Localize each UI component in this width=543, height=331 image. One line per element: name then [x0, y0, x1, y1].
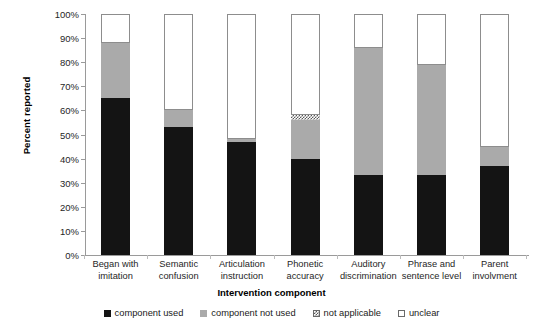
legend-item[interactable]: component used [104, 308, 184, 318]
bar-group[interactable] [291, 14, 320, 255]
white-square-icon [398, 310, 405, 317]
y-tick-mark [81, 183, 85, 184]
y-tick-label: 30% [60, 177, 79, 188]
bar-segment-component-not-used[interactable] [101, 43, 130, 98]
legend-item-label: unclear [409, 308, 440, 318]
legend-item-label: not applicable [324, 308, 381, 318]
bar-segment-component-used[interactable] [480, 166, 509, 255]
bar-segment-unclear[interactable] [354, 14, 383, 48]
bar-segment-component-used[interactable] [354, 175, 383, 255]
y-axis-line [85, 14, 86, 255]
bar-segment-component-not-used[interactable] [417, 65, 446, 176]
bar-segment-unclear[interactable] [417, 14, 446, 65]
bar-segment-unclear[interactable] [101, 14, 130, 43]
legend-item[interactable]: unclear [398, 308, 440, 318]
bar-segment-unclear[interactable] [291, 14, 320, 115]
y-tick-mark [81, 62, 85, 63]
y-tick-mark [81, 135, 85, 136]
y-tick-mark [81, 110, 85, 111]
chart-legend: component usedcomponent not usednot appl… [0, 308, 543, 318]
y-tick-mark [81, 207, 85, 208]
bar-segment-component-used[interactable] [417, 175, 446, 255]
bar-segment-component-used[interactable] [291, 159, 320, 255]
bar-segment-not-applicable[interactable] [291, 115, 320, 120]
bar-segment-component-used[interactable] [164, 127, 193, 255]
legend-item[interactable]: not applicable [313, 308, 381, 318]
y-tick-mark [81, 159, 85, 160]
y-tick-label: 80% [60, 57, 79, 68]
bar-group[interactable] [354, 14, 383, 255]
y-tick-label: 60% [60, 105, 79, 116]
y-tick-label: 20% [60, 201, 79, 212]
stacked-bar-chart: Percent reported 0%10%20%30%40%50%60%70%… [0, 0, 543, 331]
bar-segment-component-used[interactable] [101, 98, 130, 255]
x-axis-title: Intervention component [0, 287, 543, 298]
y-tick-label: 90% [60, 33, 79, 44]
bar-segment-component-not-used[interactable] [291, 120, 320, 159]
bar-segment-component-used[interactable] [227, 142, 256, 255]
y-tick-mark [81, 38, 85, 39]
y-tick-mark [81, 86, 85, 87]
y-tick-label: 40% [60, 153, 79, 164]
bar-group[interactable] [101, 14, 130, 255]
gray-square-icon [200, 310, 207, 317]
bar-group[interactable] [227, 14, 256, 255]
bar-segment-component-not-used[interactable] [227, 139, 256, 141]
legend-item[interactable]: component not used [200, 308, 295, 318]
bar-segment-component-not-used[interactable] [164, 110, 193, 127]
bar-group[interactable] [480, 14, 509, 255]
x-axis-label-line: Parent [456, 259, 534, 271]
y-tick-mark [81, 14, 85, 15]
y-axis-title: Percent reported [21, 46, 32, 186]
x-axis-label-line: involvment [456, 271, 534, 283]
y-tick-label: 70% [60, 81, 79, 92]
black-square-icon [104, 310, 111, 317]
hatched-square-icon [313, 310, 320, 317]
plot-area: 0%10%20%30%40%50%60%70%80%90%100% [86, 14, 529, 255]
bar-group[interactable] [417, 14, 446, 255]
bar-segment-unclear[interactable] [227, 14, 256, 139]
y-tick-label: 50% [60, 129, 79, 140]
bar-segment-component-not-used[interactable] [354, 48, 383, 176]
bar-segment-unclear[interactable] [480, 14, 509, 147]
y-tick-label: 10% [60, 225, 79, 236]
bar-segment-component-not-used[interactable] [480, 147, 509, 166]
y-tick-mark [81, 231, 85, 232]
legend-item-label: component not used [211, 308, 295, 318]
legend-item-label: component used [115, 308, 184, 318]
bar-group[interactable] [164, 14, 193, 255]
y-tick-label: 100% [55, 9, 79, 20]
x-axis-label: Parentinvolvment [456, 259, 534, 282]
bar-segment-unclear[interactable] [164, 14, 193, 110]
